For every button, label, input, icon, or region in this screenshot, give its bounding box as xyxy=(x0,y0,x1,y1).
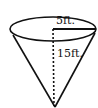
cone-right-side xyxy=(55,33,95,107)
height-label: 15ft. xyxy=(57,47,83,60)
radius-label: 5ft. xyxy=(56,14,75,27)
cone-left-side xyxy=(13,35,55,107)
cone-diagram: 5ft. 15ft. xyxy=(0,0,98,108)
